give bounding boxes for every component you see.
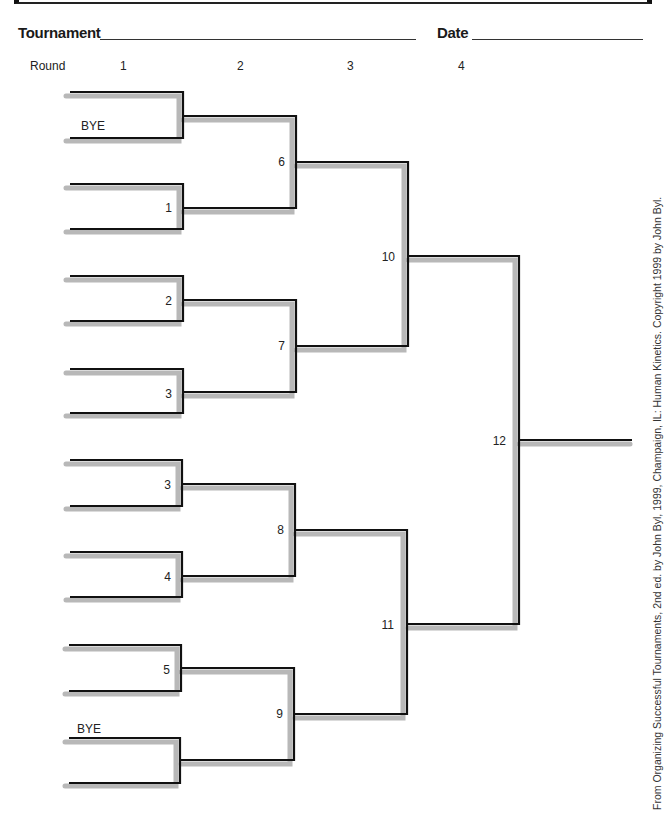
bye-label-top: BYE — [81, 119, 105, 133]
game-number-r1: 3 — [165, 387, 172, 401]
game-number-r1: 3 — [164, 478, 171, 492]
game-number-10: 10 — [382, 250, 395, 264]
game-number-11: 11 — [382, 618, 394, 632]
copyright-credit: From Organizing Successful Tournaments, … — [651, 197, 663, 810]
r1-pair-8 — [69, 738, 180, 783]
game-number-9: 9 — [276, 707, 283, 721]
game-number-r1: 1 — [165, 201, 172, 215]
game-number-r1: 2 — [165, 294, 172, 308]
game-number-r1: 5 — [163, 663, 170, 677]
game-number-8: 8 — [277, 523, 284, 537]
game-number-12: 12 — [493, 434, 506, 448]
bye-label-bottom: BYE — [77, 722, 101, 736]
game-number-7: 7 — [278, 339, 285, 353]
game-number-6: 6 — [278, 155, 285, 169]
game-number-r1: 4 — [164, 570, 171, 584]
